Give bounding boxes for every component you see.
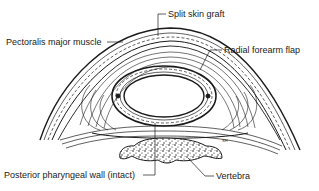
pharyngeal-reconstruction-diagram: SH	[0, 0, 319, 191]
vertebra-shape: SH	[120, 138, 228, 163]
label-vertebra: Vertebra	[216, 171, 250, 181]
label-posterior-pharyngeal-wall: Posterior pharyngeal wall (intact)	[4, 170, 135, 180]
radial-forearm-flap-layer	[112, 66, 216, 126]
artist-signature: SH	[222, 138, 228, 143]
label-radial-forearm-flap: Radial forearm flap	[224, 45, 300, 55]
label-pectoralis-major-muscle: Pectoralis major muscle	[6, 37, 102, 47]
label-split-skin-graft: Split skin graft	[168, 9, 225, 19]
